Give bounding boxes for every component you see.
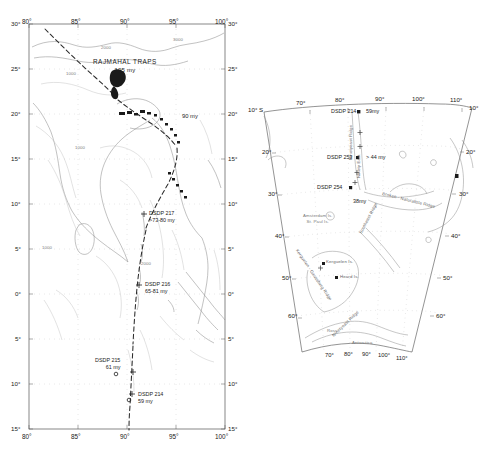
left-lat-tick-20-right: 20° [228,110,237,117]
bathy-label-1: 1000 [66,71,76,76]
left-lon-tick-90-top: 90° [120,18,130,25]
right-lon-tick-90-bottom: 90° [362,351,371,357]
ninety-east-label: Ninety East [356,154,361,178]
figure-root: 80° 85° 90° 95° 100° 80° 85° 90° 95° 100… [0,0,496,459]
heard-island-label: Heard Is. [340,274,359,279]
left-lon-tick-95-top: 95° [169,18,179,25]
dsdp-215-label: DSDP 215 61 my [95,357,120,371]
right-lat-tick-30: 30° [268,190,277,197]
left-lon-tick-100-bottom: 100° [215,433,228,440]
dsdp-214-age-left: 59 my [138,398,153,404]
cretaceous-volcanics-cluster [119,110,187,199]
left-lat-tick-10-right: 10° [228,200,237,207]
left-lat-tick-10: 10° [11,200,20,207]
ross-sea-label: Ross [327,328,337,333]
left-map-bathymetry [36,82,220,392]
left-lat-tick-5s-right: 5° [228,335,234,342]
left-lon-tick-80-top: 80° [22,18,32,25]
left-lon-tick-90-bottom: 90° [120,433,130,440]
left-lat-tick-15s-right: 15° [228,425,237,432]
left-lon-tick-80-bottom: 80° [22,433,32,440]
kerguelen-island-label: Kerguelen Is. [326,259,353,264]
left-lat-tick-15: 15° [11,155,20,162]
right-lat-tick-20-right: 20° [466,148,475,155]
left-lat-tick-0: 0° [15,290,21,297]
right-lon-tick-100-bottom: 100° [378,352,390,358]
dsdp-253-age: > 44 my [366,154,385,161]
left-map-graticule [29,24,225,429]
left-lat-tick-30-right: 30° [228,20,237,27]
dsdp-217-age: >73-80 my [149,217,175,223]
dsdp-215-age: 61 my [106,364,121,370]
left-map-ticks [29,24,225,429]
dsdp-216-label: DSDP 216 65-81 my [145,281,170,295]
amsterdam-st-paul-label: Amsterdam Is.St. Paul Is. [303,213,333,225]
left-map-site-markers [114,211,147,402]
dsdp-214-label-left: DSDP 214 59 my [138,391,163,405]
left-lat-tick-10s-right: 10° [228,380,237,387]
dsdp-216-age: 65-81 my [145,288,167,294]
dsdp-217-id: DSDP 217 [149,210,174,216]
left-lat-tick-25: 25° [11,65,20,72]
bathy-label-6: 1000 [75,145,85,150]
right-lat-tick-50: 50° [282,274,291,281]
right-lon-tick-110-bottom: 110° [396,355,408,361]
right-lat-tick-20: 20° [262,148,271,155]
left-lat-tick-25-right: 25° [228,65,237,72]
right-lat-tick-60-right: 60° [436,312,445,319]
antarctica-label: Antarctica [352,340,373,345]
left-map-graphics [0,0,496,459]
right-lat-tick-40-right: 40° [451,232,460,239]
left-lat-tick-5s: 5° [15,335,21,342]
left-lat-tick-30: 30° [11,20,20,27]
right-lon-tick-70-top: 70° [296,99,305,106]
right-lat-tick-50-right: 50° [443,274,452,281]
dsdp-214-id-left: DSDP 214 [138,391,163,397]
left-lat-tick-15s: 15° [11,425,20,432]
right-lat-tick-30-right: 30° [459,190,468,197]
right-lon-tick-70-bottom: 70° [325,352,334,358]
left-lon-tick-95-bottom: 95° [169,433,179,440]
dsdp-216-id: DSDP 216 [145,281,170,287]
left-lat-tick-15-right: 15° [228,155,237,162]
left-lon-tick-85-top: 85° [71,18,81,25]
right-lon-tick-100-top: 100° [412,95,425,102]
left-lat-tick-5n-right: 5° [228,245,234,252]
left-lat-tick-20: 20° [11,110,20,117]
left-lat-tick-5n: 5° [15,245,21,252]
left-lat-tick-0-right: 0° [228,290,234,297]
right-lon-tick-80-bottom: 80° [344,351,353,357]
left-map-frame [29,24,225,429]
right-lat-tick-10-right: 10° [469,104,478,111]
right-lat-tick-60: 60° [288,312,297,319]
right-lon-tick-80-top: 80° [335,96,344,103]
dsdp-217-label: DSDP 217 >73-80 my [149,210,175,224]
dsdp-254-label: DSDP 254 [317,184,342,191]
rajmahal-traps-title: RAJMAHAL TRAPS [93,58,157,65]
rajmahal-traps-age: 105 my [114,67,135,73]
ninetyeast-ridge-label: Ninetyeast Ridge [348,125,353,160]
bathy-label-3: 3000 [173,37,183,42]
left-lon-tick-100-top: 100° [215,18,228,25]
left-lat-tick-10s: 10° [11,380,20,387]
right-lat-10s-label: 10° S [248,106,263,113]
dsdp-254-age: 38my [353,198,366,205]
right-lon-tick-110-top: 110° [450,96,462,103]
right-lat-tick-40: 40° [275,232,284,239]
dsdp-214-age-right: 59my [366,108,379,115]
left-lon-tick-85-bottom: 85° [71,433,81,440]
age-90my-label: 90 my [182,113,198,121]
right-lon-tick-90-top: 90° [375,95,384,102]
dsdp-215-id: DSDP 215 [95,357,120,363]
left-map-coastlines [32,33,225,343]
bathy-label-2: 2000 [101,45,111,50]
bathy-label-5: 2000 [141,261,151,266]
rajmahal-traps-label: RAJMAHAL TRAPS 105 my [93,58,157,75]
bathy-label-4: 1000 [42,245,52,250]
dsdp-214-label-right: DSDP 214 [331,108,356,115]
